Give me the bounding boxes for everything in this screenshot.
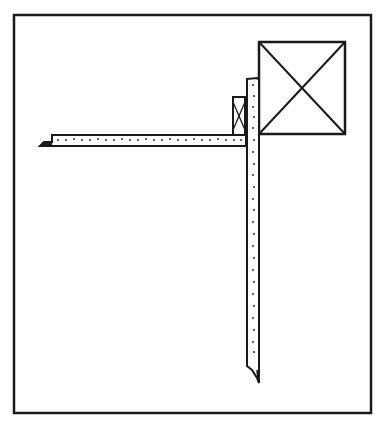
large-x-box bbox=[259, 42, 345, 134]
small-x-box bbox=[233, 97, 245, 135]
diagram-figure bbox=[0, 0, 384, 426]
vertical-dotted-bar bbox=[247, 78, 259, 383]
horizontal-dotted-bar bbox=[40, 135, 246, 146]
